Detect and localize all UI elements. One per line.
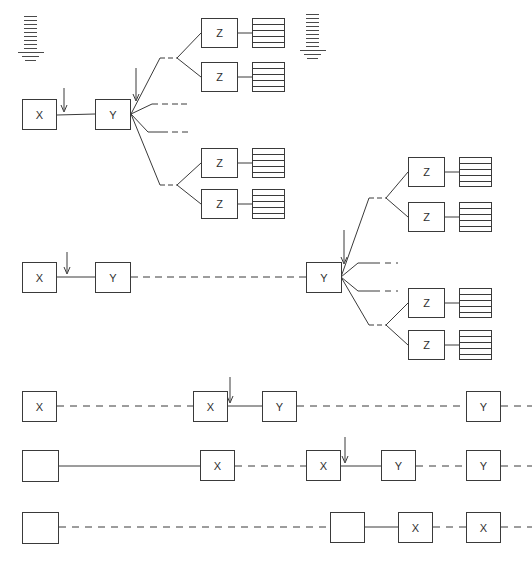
node-z-lower-3[interactable]: Z (408, 288, 445, 318)
node-z-upper-3[interactable]: Z (201, 148, 238, 178)
edge-junction-bot-upper-a (177, 163, 201, 185)
row1-node-4[interactable]: Y (466, 391, 501, 422)
edge-junction-top-lower-a (386, 172, 408, 198)
grid-box-lower-4 (459, 330, 492, 360)
node-z-lower-4[interactable]: Z (408, 330, 445, 360)
branch-y-lower-stub2 (341, 277, 358, 291)
edge-junction-bot-lower-a (386, 303, 408, 325)
edge-junction-top-upper-b (177, 58, 201, 77)
arrow-mid-x (64, 252, 70, 274)
branch-y-lower-bottom (341, 277, 369, 325)
branch-y-upper-bottom (131, 114, 160, 185)
row1-node-1[interactable]: X (22, 391, 57, 422)
scale-mark-left (18, 16, 44, 62)
edge-junction-top-lower-b (386, 198, 408, 217)
row3-node-1[interactable] (22, 512, 59, 544)
node-z-upper-1[interactable]: Z (201, 18, 238, 48)
scale-mark-right (300, 14, 326, 60)
node-y-lower[interactable]: Y (306, 262, 342, 293)
node-x-middle[interactable]: X (22, 262, 57, 293)
branch-y-upper-top (131, 58, 160, 114)
row2-node-3[interactable]: X (306, 450, 341, 481)
grid-box-upper-3 (252, 148, 285, 178)
grid-box-lower-1 (459, 157, 492, 187)
row1-node-2[interactable]: X (193, 391, 228, 422)
grid-box-upper-2 (252, 62, 285, 92)
row3-node-2[interactable] (330, 512, 365, 543)
node-z-lower-2[interactable]: Z (408, 202, 445, 232)
row2-node-4[interactable]: Y (381, 450, 416, 481)
node-x-upper[interactable]: X (22, 99, 57, 130)
arrow-upper-y (133, 68, 139, 101)
row1-node-3[interactable]: Y (262, 391, 297, 422)
grid-box-upper-4 (252, 189, 285, 219)
arrow-upper-x (61, 88, 67, 112)
grid-box-lower-3 (459, 288, 492, 318)
grid-box-lower-2 (459, 202, 492, 232)
row2-node-5[interactable]: Y (466, 450, 501, 481)
row3-node-3[interactable]: X (398, 512, 433, 543)
arrow-row2 (342, 437, 348, 463)
row3-node-4[interactable]: X (466, 512, 501, 543)
node-y-upper[interactable]: Y (95, 99, 131, 130)
diagram-page: X Y Z Z Z Z X Y Y Z Z Z Z X X Y Y X X Y … (0, 0, 532, 564)
branch-y-upper-stub2 (131, 114, 148, 132)
node-z-upper-2[interactable]: Z (201, 62, 238, 92)
row2-node-1[interactable] (22, 450, 59, 482)
node-z-lower-1[interactable]: Z (408, 157, 445, 187)
edge-x-to-y-upper (57, 114, 95, 115)
row2-node-2[interactable]: X (200, 450, 235, 481)
node-z-upper-4[interactable]: Z (201, 189, 238, 219)
node-y-middle[interactable]: Y (95, 262, 131, 293)
arrow-lower-y (341, 230, 347, 264)
edge-junction-bot-lower-b (386, 325, 408, 345)
grid-box-upper-1 (252, 18, 285, 48)
edge-junction-top-upper-a (177, 33, 201, 58)
edge-junction-bot-upper-b (177, 185, 201, 204)
